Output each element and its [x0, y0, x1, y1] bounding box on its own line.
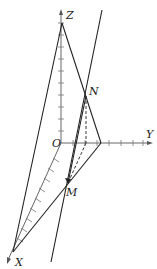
coordinate-diagram: Z Y X O N M: [0, 0, 157, 269]
line-zy: [62, 23, 101, 143]
label-m: M: [65, 186, 78, 199]
label-n: N: [88, 85, 99, 98]
label-origin: O: [52, 137, 61, 150]
line-long: [51, 10, 102, 262]
line-nm: [68, 96, 86, 183]
x-axis: [7, 143, 61, 264]
y-arrow-icon: [147, 141, 153, 145]
label-x: X: [14, 256, 24, 269]
label-y: Y: [146, 128, 155, 141]
z-arrow-icon: [59, 9, 63, 15]
figure-lines: [13, 10, 102, 262]
x-arrow-icon: [7, 257, 11, 264]
line-yx: [13, 143, 101, 252]
label-z: Z: [65, 9, 74, 22]
